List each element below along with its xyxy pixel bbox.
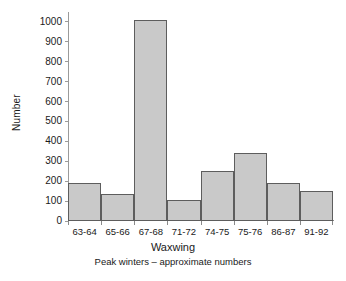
waxwing-bar-chart: Number 01002003004005006007008009001000 … [0, 0, 346, 281]
x-axis-tick-mark [101, 221, 102, 225]
bar-column [167, 12, 200, 221]
x-axis-tick-mark [201, 221, 202, 225]
y-axis-tick-label: 500 [45, 116, 62, 126]
bar [167, 200, 200, 221]
bar-column [267, 12, 300, 221]
y-axis-tick-label: 0 [56, 216, 62, 226]
y-axis-tick-label: 100 [45, 196, 62, 206]
bar-column [68, 12, 101, 221]
bar [234, 153, 267, 221]
x-axis-title: Waxwing [0, 241, 346, 253]
y-axis-tick-label: 1000 [40, 17, 62, 27]
x-axis-tick-labels: 63-6465-6667-6871-7274-7575-7686-8791-92 [68, 226, 333, 237]
y-axis-title: Number [8, 0, 24, 225]
x-axis-tick-mark [134, 221, 135, 225]
x-axis-category-label: 67-68 [134, 226, 167, 237]
x-axis-category-label: 65-66 [101, 226, 134, 237]
y-axis-tick-label: 800 [45, 57, 62, 67]
bar [134, 20, 167, 221]
y-axis-tick-label: 900 [45, 37, 62, 47]
bar [68, 183, 101, 221]
y-axis-title-text: Number [11, 94, 22, 131]
bar-column [101, 12, 134, 221]
chart-subtitle: Peak winters – approximate numbers [0, 256, 346, 267]
plot-area: 01002003004005006007008009001000 [68, 12, 333, 221]
x-axis-tick-mark [332, 221, 333, 225]
x-axis-category-label: 91-92 [300, 226, 333, 237]
x-axis-category-label: 86-87 [267, 226, 300, 237]
bar [101, 194, 134, 221]
y-axis-tick-label: 200 [45, 176, 62, 186]
x-axis-category-label: 63-64 [68, 226, 101, 237]
y-axis-tick-label: 300 [45, 156, 62, 166]
bar-column [134, 12, 167, 221]
bar-column [300, 12, 333, 221]
y-axis-tick-label: 700 [45, 77, 62, 87]
x-axis-category-label: 71-72 [167, 226, 200, 237]
x-axis-category-label: 74-75 [201, 226, 234, 237]
x-axis-tick-mark [68, 221, 69, 225]
bar [267, 183, 300, 221]
bar-series [68, 12, 333, 221]
x-axis-category-label: 75-76 [234, 226, 267, 237]
bar [300, 191, 333, 221]
x-axis-tick-mark [234, 221, 235, 225]
bar [201, 171, 234, 221]
y-axis-tick-label: 400 [45, 136, 62, 146]
bar-column [201, 12, 234, 221]
bar-column [234, 12, 267, 221]
x-axis-tick-mark [267, 221, 268, 225]
x-axis-tick-mark [167, 221, 168, 225]
y-axis-tick-label: 600 [45, 97, 62, 107]
x-axis-tick-mark [300, 221, 301, 225]
